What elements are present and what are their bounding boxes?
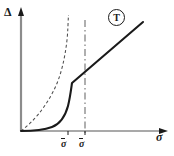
panel-label-badge: T <box>108 9 125 26</box>
y-axis-arrow-icon <box>18 7 24 16</box>
overbar-icon <box>79 138 83 139</box>
figure-container: Δ σ σ σ T <box>0 0 174 156</box>
x-axis-label: σ <box>156 131 162 143</box>
asymptote-dashed-curve <box>21 15 69 131</box>
x-tick-label-sigma-c: σ <box>61 137 66 149</box>
y-axis <box>18 7 24 131</box>
y-axis-label: Δ <box>4 6 12 18</box>
x-tick-label-sigma-bar: σ <box>79 137 84 149</box>
overbar-group: σ <box>79 137 84 149</box>
plot-canvas <box>0 0 174 156</box>
overbar-icon <box>61 138 65 139</box>
tick-glyph: σ <box>61 138 66 149</box>
response-solid-curve <box>21 22 143 131</box>
tick-glyph: σ <box>79 138 84 149</box>
overbar-group: σ <box>61 137 66 149</box>
